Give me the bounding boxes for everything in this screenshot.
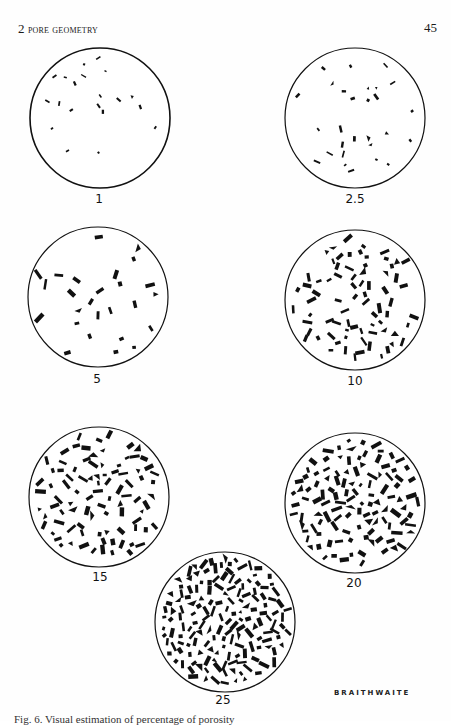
- porosity-panel-20: [285, 433, 425, 573]
- pore-grain: [281, 612, 284, 621]
- pore-grain: [167, 651, 172, 655]
- pore-grain: [353, 136, 356, 141]
- porosity-panel-2-5: [285, 48, 425, 188]
- pore-grain: [188, 652, 192, 657]
- pore-grain: [316, 532, 321, 536]
- pore-grain: [329, 349, 334, 352]
- pore-grain: [259, 611, 267, 616]
- pore-grain: [97, 532, 101, 537]
- pore-grain: [120, 507, 125, 516]
- pore-grain: [344, 346, 347, 355]
- sample-circle: [30, 48, 170, 188]
- pore-grain: [292, 305, 295, 313]
- pore-grain: [35, 489, 46, 494]
- pore-grain: [134, 524, 137, 531]
- pore-grain: [260, 586, 268, 589]
- panel-label-15: 15: [92, 570, 107, 584]
- pore-grain: [272, 657, 276, 667]
- pore-grain: [102, 110, 104, 114]
- porosity-panel-10: [285, 230, 425, 370]
- panel-label-5: 5: [93, 372, 101, 386]
- pore-grain: [228, 562, 232, 566]
- porosity-panel-1: [30, 48, 170, 188]
- pore-grain: [365, 255, 369, 259]
- pore-grain: [320, 489, 324, 499]
- pore-grain: [231, 612, 236, 616]
- pore-grain: [243, 649, 247, 659]
- pore-grain: [241, 583, 244, 589]
- sample-circle: [29, 427, 169, 567]
- pore-grain: [200, 580, 204, 584]
- panel-label-20: 20: [346, 576, 361, 590]
- pore-grain: [179, 585, 184, 589]
- pore-grain: [103, 474, 107, 476]
- pore-grain: [144, 527, 148, 532]
- pore-grain: [263, 603, 267, 608]
- pore-grain: [254, 566, 262, 570]
- pore-grain: [81, 445, 91, 450]
- pore-grain: [195, 585, 198, 593]
- pore-grain: [363, 535, 369, 540]
- pore-grain: [342, 90, 346, 92]
- porosity-panel-25: [155, 552, 295, 692]
- pore-grain: [347, 456, 351, 465]
- panel-label-1: 1: [95, 192, 103, 206]
- pore-grain: [181, 660, 184, 668]
- pore-grain: [257, 646, 262, 650]
- pore-grain: [378, 450, 384, 453]
- porosity-panel-15: [29, 427, 169, 567]
- figure-caption: Fig. 6. Visual estimation of percentage …: [14, 713, 235, 725]
- sample-circle: [28, 227, 168, 367]
- sample-circle: [285, 433, 425, 573]
- pore-grain: [220, 562, 223, 568]
- panel-label-2-5: 2.5: [345, 192, 364, 206]
- panel-label-25: 25: [215, 693, 230, 707]
- pore-grain: [96, 311, 99, 319]
- pore-grain: [207, 586, 212, 595]
- pore-grain: [207, 580, 211, 586]
- sample-circle: [285, 230, 425, 370]
- artist-credit: BRAITHWAITE: [334, 689, 410, 697]
- porosity-panel-5: [28, 227, 168, 367]
- pore-grain: [367, 281, 371, 290]
- pore-grain: [212, 635, 215, 640]
- sample-circle: [285, 48, 425, 188]
- pore-grain: [57, 469, 63, 473]
- panel-label-10: 10: [347, 374, 362, 388]
- pore-grain: [132, 346, 136, 349]
- pore-grain: [188, 674, 198, 679]
- pore-grain: [385, 311, 389, 318]
- pore-grain: [151, 480, 155, 484]
- pore-grain: [357, 508, 361, 515]
- pore-grain: [349, 553, 353, 557]
- pore-grain: [268, 574, 272, 579]
- pore-grain: [178, 634, 182, 638]
- pore-grain: [185, 595, 191, 600]
- pore-grain: [348, 252, 352, 257]
- pore-grain: [331, 554, 337, 558]
